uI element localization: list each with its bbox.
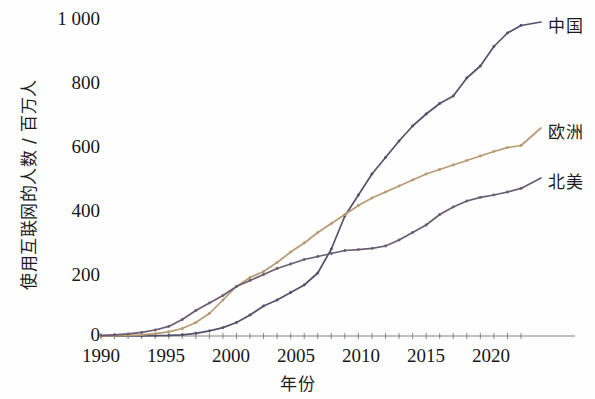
series-point-northamerica [181,318,184,321]
series-point-europe [492,150,495,153]
series-point-europe [249,276,252,279]
series-point-china [303,284,306,287]
series-point-europe [357,204,360,207]
series-point-northamerica [330,252,333,255]
series-point-europe [384,191,387,194]
series-point-northamerica [452,206,455,209]
series-point-china [425,113,428,116]
series-point-china [479,65,482,68]
legend-label-europe: 欧洲 [548,118,583,143]
series-point-northamerica [438,213,441,216]
series-point-northamerica [100,334,103,337]
series-point-europe [181,327,184,330]
series-point-northamerica [398,239,401,242]
series-point-northamerica [140,331,143,334]
series-point-china [411,125,414,128]
series-point-china [194,332,197,335]
series-point-china [181,333,184,336]
series-point-europe [506,146,509,149]
series-point-northamerica [194,309,197,312]
series-point-europe [154,332,157,335]
legend-label-northamerica: 北美 [548,168,583,193]
series-point-china [249,314,252,317]
series-point-northamerica [303,258,306,261]
series-point-northamerica [411,231,414,234]
series-line-northamerica [101,188,521,335]
series-point-china [465,77,468,80]
series-point-northamerica [208,302,211,305]
series-point-europe [411,179,414,182]
series-point-china [316,272,319,275]
series-point-northamerica [167,325,170,328]
series-point-europe [330,222,333,225]
series-point-europe [303,242,306,245]
series-point-northamerica [384,245,387,248]
series-point-northamerica [154,329,157,332]
series-point-europe [398,185,401,188]
series-point-china [289,291,292,294]
series-point-china [330,248,333,251]
series-point-europe [208,312,211,315]
series-point-europe [289,251,292,254]
series-point-northamerica [343,249,346,252]
plot-area [0,0,595,399]
series-point-europe [316,231,319,234]
series-point-northamerica [357,248,360,251]
series-point-northamerica [127,332,130,335]
series-point-china [276,299,279,302]
series-point-europe [425,173,428,176]
legend-label-china: 中国 [548,12,583,37]
series-point-northamerica [113,333,116,336]
series-point-northamerica [492,194,495,197]
series-point-europe [438,168,441,171]
series-point-northamerica [425,224,428,227]
series-point-northamerica [276,267,279,270]
series-point-northamerica [249,279,252,282]
series-point-china [398,140,401,143]
data-series-group [100,24,523,337]
series-point-northamerica [289,263,292,266]
series-point-northamerica [465,200,468,203]
series-point-china [262,305,265,308]
series-point-europe [167,330,170,333]
series-point-china [167,334,170,337]
series-point-china [221,326,224,329]
series-point-china [371,173,374,176]
legend-leader-northamerica [521,178,541,188]
series-point-europe [221,299,224,302]
series-point-china [235,321,238,324]
legend-leader-lines [521,22,541,188]
series-point-europe [194,321,197,324]
series-point-northamerica [221,294,224,297]
series-point-china [452,95,455,98]
series-point-europe [452,164,455,167]
series-point-china [208,329,211,332]
chart-figure: 使用互联网的人数 / 百万人 年份 1 000 800 600 400 200 … [0,0,595,399]
series-line-china [101,26,521,337]
legend-leader-europe [521,128,541,146]
series-point-northamerica [235,285,238,288]
series-point-europe [262,270,265,273]
series-point-northamerica [506,191,509,194]
series-point-europe [276,261,279,264]
series-point-europe [343,213,346,216]
series-point-northamerica [371,247,374,250]
series-point-china [506,32,509,35]
legend-leader-china [521,22,541,26]
series-line-europe [101,146,521,337]
series-point-northamerica [316,255,319,258]
series-point-china [384,156,387,159]
series-point-china [357,194,360,197]
series-point-northamerica [262,273,265,276]
series-point-china [492,45,495,48]
series-point-china [438,102,441,105]
series-point-europe [371,197,374,200]
series-point-northamerica [479,196,482,199]
series-point-europe [465,159,468,162]
series-point-europe [479,155,482,158]
